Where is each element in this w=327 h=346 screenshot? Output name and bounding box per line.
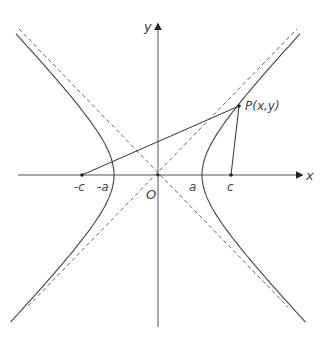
neg-c-label: -c bbox=[74, 180, 85, 194]
asymptote-positive-slope bbox=[28, 29, 297, 306]
origin-label: O bbox=[146, 187, 156, 202]
hyperbola-right-branch bbox=[202, 34, 306, 322]
hyperbola-left-branch bbox=[11, 34, 115, 322]
focal-line-right bbox=[231, 106, 239, 175]
pos-c-label: c bbox=[227, 180, 234, 194]
point-p bbox=[237, 104, 241, 108]
focus-left-point bbox=[80, 173, 84, 177]
focal-line-left bbox=[82, 106, 239, 175]
asymptote-negative-slope bbox=[19, 29, 288, 307]
x-axis-label: x bbox=[305, 168, 314, 183]
pos-a-label: a bbox=[189, 180, 196, 194]
neg-a-label: -a bbox=[97, 180, 109, 194]
point-p-label: P(x,y) bbox=[245, 99, 280, 113]
origin-point bbox=[157, 174, 160, 177]
hyperbola-diagram: y x O -c -a a c P(x,y) bbox=[0, 0, 327, 346]
y-axis-label: y bbox=[143, 19, 152, 34]
focus-right-point bbox=[229, 173, 233, 177]
